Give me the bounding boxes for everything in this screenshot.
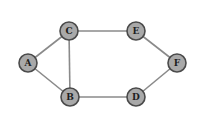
node-label-a: A xyxy=(24,58,33,68)
node-c: C xyxy=(60,22,78,40)
node-d: D xyxy=(127,88,145,106)
node-a: A xyxy=(19,54,37,72)
graph-diagram: A C B E F D xyxy=(0,0,202,119)
node-e: E xyxy=(127,22,145,40)
node-label-e: E xyxy=(133,26,140,36)
edge-c-b xyxy=(69,31,70,97)
edges xyxy=(28,31,177,97)
node-label-b: B xyxy=(66,92,74,102)
node-b: B xyxy=(61,88,79,106)
node-f: F xyxy=(168,54,186,72)
node-label-c: C xyxy=(65,26,72,36)
node-label-d: D xyxy=(132,92,140,102)
nodes: A C B E F D xyxy=(19,22,186,106)
node-label-f: F xyxy=(174,58,181,68)
